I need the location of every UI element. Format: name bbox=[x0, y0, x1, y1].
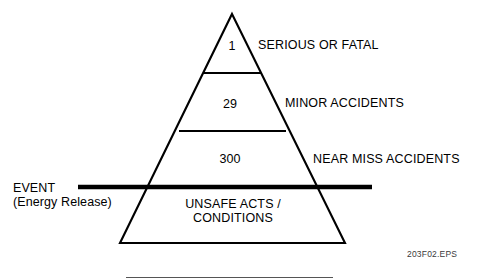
base-label-line-2: CONDITIONS bbox=[193, 211, 273, 225]
event-marker-line-2: (Energy Release) bbox=[13, 195, 112, 209]
tier-count-minor-accidents: 29 bbox=[223, 97, 237, 111]
pyramid-diagram bbox=[0, 0, 488, 280]
event-marker-line-1: EVENT bbox=[13, 181, 112, 195]
tier-label-near-miss-accidents: NEAR MISS ACCIDENTS bbox=[313, 152, 460, 166]
base-label-unsafe-acts-conditions: UNSAFE ACTS / CONDITIONS bbox=[185, 197, 281, 225]
tier-label-minor-accidents: MINOR ACCIDENTS bbox=[285, 96, 404, 110]
figure-id-caption: 203F02.EPS bbox=[407, 250, 457, 260]
base-label-line-1: UNSAFE ACTS / bbox=[185, 197, 281, 211]
tier-count-near-miss-accidents: 300 bbox=[219, 152, 240, 166]
figure-canvas: 1 SERIOUS OR FATAL 29 MINOR ACCIDENTS 30… bbox=[0, 0, 488, 280]
tier-label-serious-or-fatal: SERIOUS OR FATAL bbox=[258, 38, 379, 52]
tier-count-serious-or-fatal: 1 bbox=[228, 39, 235, 53]
event-marker-label: EVENT (Energy Release) bbox=[13, 181, 112, 209]
